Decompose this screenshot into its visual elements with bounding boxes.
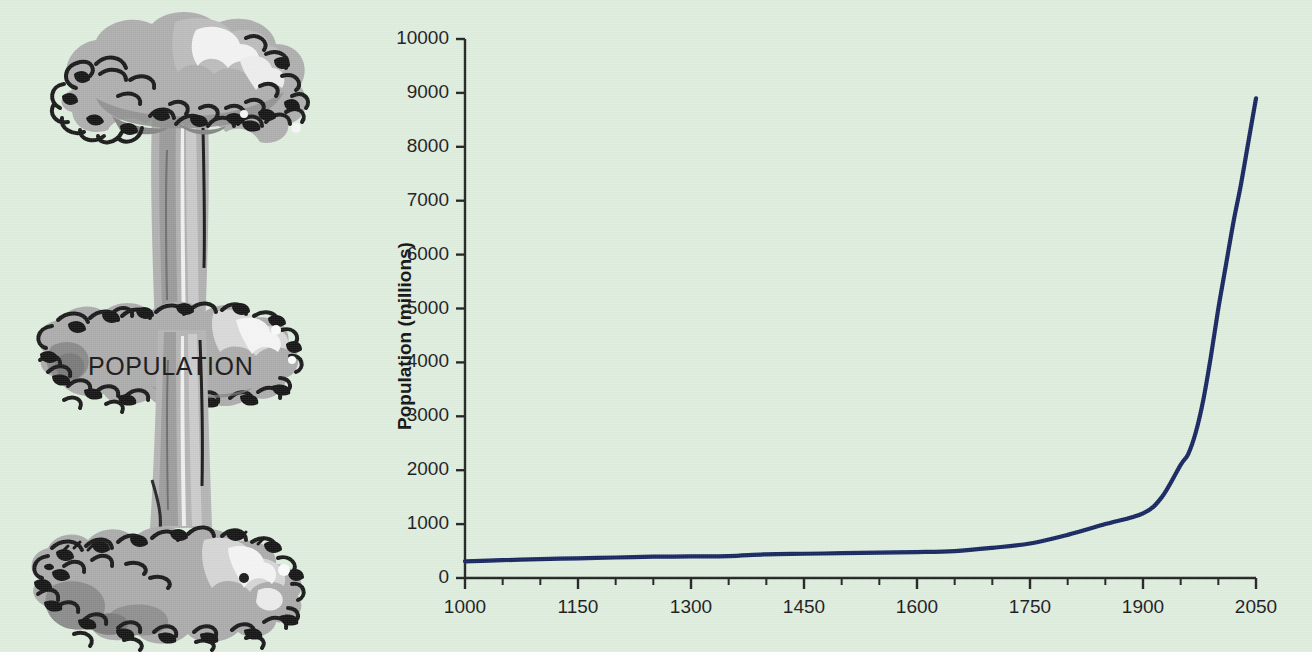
tick-marks bbox=[456, 39, 1256, 589]
mushroom-cloud-svg bbox=[0, 0, 360, 652]
plot-area-svg bbox=[360, 0, 1312, 652]
mushroom-cap bbox=[52, 12, 308, 143]
y-tick-label: 4000 bbox=[360, 350, 449, 372]
y-tick-label: 6000 bbox=[360, 243, 449, 265]
population-series-line bbox=[465, 98, 1256, 561]
x-tick-label: 1900 bbox=[1098, 596, 1188, 618]
y-tick-label: 1000 bbox=[360, 512, 449, 534]
y-tick-label: 7000 bbox=[360, 189, 449, 211]
y-tick-label: 0 bbox=[360, 566, 449, 588]
axes bbox=[465, 39, 1256, 578]
x-tick-label: 1750 bbox=[985, 596, 1075, 618]
y-tick-label: 10000 bbox=[360, 27, 449, 49]
y-tick-label: 2000 bbox=[360, 458, 449, 480]
population-line-chart: Population (millions) 010002000300040005… bbox=[360, 0, 1312, 652]
page-root: POPULATION Population (millions) 0100020… bbox=[0, 0, 1312, 652]
y-tick-label: 8000 bbox=[360, 135, 449, 157]
x-tick-label: 1150 bbox=[533, 596, 623, 618]
cloud-stem-upper bbox=[151, 118, 209, 330]
y-tick-label: 3000 bbox=[360, 404, 449, 426]
x-tick-label: 1450 bbox=[759, 596, 849, 618]
x-tick-label: 1300 bbox=[646, 596, 736, 618]
x-tick-label: 1600 bbox=[872, 596, 962, 618]
x-tick-label: 2050 bbox=[1211, 596, 1301, 618]
x-tick-label: 1000 bbox=[420, 596, 510, 618]
illustration-caption: POPULATION bbox=[88, 352, 253, 381]
mushroom-base-cloud bbox=[32, 526, 304, 650]
mushroom-cloud-illustration: POPULATION bbox=[0, 0, 360, 652]
y-tick-label: 5000 bbox=[360, 297, 449, 319]
y-tick-label: 9000 bbox=[360, 81, 449, 103]
